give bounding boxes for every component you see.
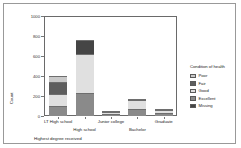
legend-swatch-icon <box>190 104 196 109</box>
x-axis-tick-label: High school <box>61 127 109 132</box>
legend-item-fair[interactable]: Fair <box>190 80 241 88</box>
bar-segment-good[interactable] <box>128 100 146 108</box>
bar-segment-fair[interactable] <box>49 82 67 94</box>
bar-stack[interactable] <box>49 76 67 116</box>
legend: Condition of health PoorFairGoodExcellen… <box>190 64 241 110</box>
x-axis-tick-label: Graduate <box>140 119 188 124</box>
bar-segment-excellent[interactable] <box>76 93 94 116</box>
y-axis-tick <box>41 36 44 37</box>
y-axis-tick-label: 600 <box>4 54 40 59</box>
x-axis-tick <box>85 117 86 119</box>
legend-swatch-icon <box>190 81 196 86</box>
x-axis-tick <box>164 117 165 119</box>
bar-segment-good[interactable] <box>49 94 67 106</box>
x-axis-title: Highest degree received <box>34 136 82 141</box>
bar-segment-excellent[interactable] <box>155 113 173 116</box>
legend-item-good[interactable]: Good <box>190 87 241 95</box>
y-axis-tick <box>41 116 44 117</box>
x-axis-tick <box>111 117 112 119</box>
chart-frame: 02004006008001000 Count LT High schoolHi… <box>3 3 236 144</box>
legend-item-excellent[interactable]: Excellent <box>190 95 241 103</box>
legend-item-missing[interactable]: Missing <box>190 102 241 110</box>
bar-segment-excellent[interactable] <box>128 109 146 117</box>
y-axis-tick-label: 400 <box>4 74 40 79</box>
bar-stack[interactable] <box>76 40 94 116</box>
legend-swatch-icon <box>190 96 196 101</box>
y-axis-tick <box>41 96 44 97</box>
bar-segment-missing[interactable] <box>76 40 94 54</box>
y-axis-tick <box>41 56 44 57</box>
x-axis-tick-label: Junior college <box>87 119 135 124</box>
bar-stack[interactable] <box>128 99 146 116</box>
y-axis-tick-labels: 02004006008001000 <box>4 4 40 148</box>
y-axis-title: Count <box>9 83 14 115</box>
bar-stack[interactable] <box>155 109 173 116</box>
y-axis-tick-label: 1000 <box>4 14 40 19</box>
x-axis-tick-label: Bachelor <box>113 127 161 132</box>
y-axis-tick-label: 800 <box>4 34 40 39</box>
legend-title: Condition of health <box>190 64 241 69</box>
bar-segment-excellent[interactable] <box>102 114 120 116</box>
bar-segment-good[interactable] <box>76 54 94 94</box>
legend-item-label: Missing <box>199 103 213 108</box>
legend-item-label: Fair <box>199 81 206 86</box>
bar-segment-excellent[interactable] <box>49 106 67 117</box>
x-axis-tick <box>137 117 138 119</box>
y-axis-tick <box>41 16 44 17</box>
x-axis-tick-label: LT High school <box>34 119 82 124</box>
bar-stack[interactable] <box>102 111 120 116</box>
bars-container <box>45 16 177 116</box>
legend-item-label: Excellent <box>199 96 216 101</box>
legend-entries: PoorFairGoodExcellentMissing <box>190 72 241 110</box>
legend-item-label: Poor <box>199 73 208 78</box>
legend-item-label: Good <box>199 88 209 93</box>
legend-swatch-icon <box>190 74 196 79</box>
legend-item-poor[interactable]: Poor <box>190 72 241 80</box>
legend-swatch-icon <box>190 89 196 94</box>
y-axis-tick <box>41 76 44 77</box>
x-axis-tick <box>58 117 59 119</box>
